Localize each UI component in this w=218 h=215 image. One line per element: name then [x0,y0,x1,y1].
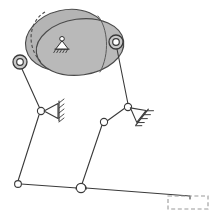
ghost-slider-block[interactable] [168,196,208,209]
link-coupler-right[interactable] [107,108,125,121]
link-left-upper[interactable] [22,69,41,111]
link-base-left[interactable] [21,184,77,188]
joint-bottom-left[interactable] [15,181,22,188]
pivot-left-upper[interactable] [13,55,27,69]
link-right-upper[interactable] [117,49,128,104]
joint-bottom-mid-circle [76,183,85,192]
link-coupler-lower[interactable] [82,125,102,184]
pivot-right-upper[interactable] [109,35,123,49]
support-right-pin[interactable] [124,98,154,128]
joint-coupler-mid[interactable] [100,118,107,125]
support-left-triangle-icon [44,104,58,119]
pivot-left-upper-inner [17,59,24,66]
mechanism-diagram-root: Planar linkage mechanism schematic [0,0,218,215]
support-left-pin[interactable] [37,99,64,122]
support-left-hatching [59,99,64,122]
link-left-lower[interactable] [18,115,39,181]
link-base-right[interactable] [86,188,190,199]
joint-bottom-mid[interactable] [76,183,86,192]
pivot-right-upper-inner [113,39,120,46]
mechanism-schematic-canvas: Planar linkage mechanism schematic [0,0,218,215]
